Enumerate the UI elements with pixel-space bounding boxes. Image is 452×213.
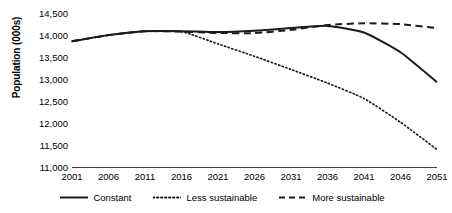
x-axis-tick-labels: 2001200620112016202120262031203620412046… [72,171,437,185]
legend-swatch-dotted [153,193,181,202]
y-axis-tick-label: 11,500 [26,141,68,151]
x-axis-line [72,167,437,168]
plot-area [72,14,437,168]
y-axis-tick-label: 14,000 [26,31,68,41]
y-axis-tick-label: 13,500 [26,53,68,63]
series-line-less-sustainable [72,31,437,150]
legend-label: More sustainable [312,192,384,203]
legend-item-less-sustainable[interactable]: Less sustainable [153,192,257,203]
plot-svg [72,14,437,168]
y-axis-title: Population (000s) [11,0,22,128]
x-axis-tick-label: 2051 [414,171,452,183]
y-axis-tick-label: 12,500 [26,97,68,107]
legend-swatch-solid [60,193,88,202]
legend-label: Constant [93,192,131,203]
y-axis-tick-label: 12,000 [26,119,68,129]
chart-legend: ConstantLess sustainableMore sustainable [0,189,445,205]
legend-label: Less sustainable [186,192,257,203]
legend-item-constant[interactable]: Constant [60,192,131,203]
series-line-constant [72,26,437,82]
legend-item-more-sustainable[interactable]: More sustainable [279,192,384,203]
legend-swatch-dashed [279,193,307,202]
y-axis-tick-label: 13,000 [26,75,68,85]
y-axis-tick-label: 14,500 [26,9,68,19]
